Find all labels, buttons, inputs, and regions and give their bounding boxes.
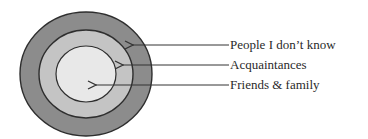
inner-circle-friends-family (56, 46, 116, 102)
label-acquaintances: Acquaintances (230, 57, 307, 72)
concentric-circles-diagram: People I don’t know Acquaintances Friend… (0, 0, 368, 139)
label-friends-family: Friends & family (230, 77, 320, 92)
label-strangers: People I don’t know (230, 37, 336, 52)
